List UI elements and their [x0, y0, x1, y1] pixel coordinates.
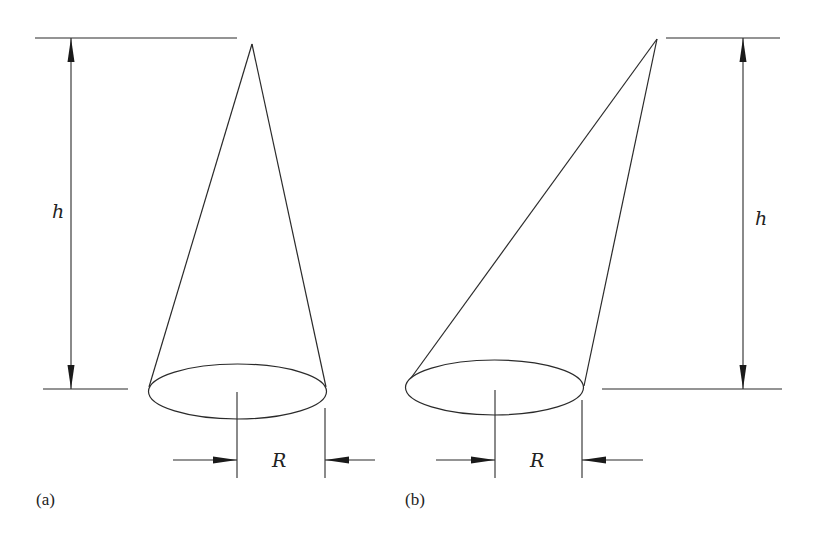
- cone-diagram: h R (a) h: [0, 0, 820, 538]
- height-label-a: h: [52, 200, 64, 222]
- panel-a: h R (a): [35, 38, 375, 509]
- panel-b: h R (b): [405, 38, 782, 509]
- height-label-b: h: [755, 207, 767, 229]
- arrow-right-icon: [213, 457, 237, 464]
- arrow-left-icon: [582, 457, 606, 464]
- panel-label-b: (b): [405, 490, 425, 509]
- arrow-up-icon: [740, 38, 747, 62]
- radius-label-b: R: [529, 449, 544, 471]
- height-dimension-a: h: [35, 38, 237, 389]
- radius-label-a: R: [271, 449, 286, 471]
- cone-b-right-edge: [584, 39, 657, 386]
- arrow-down-icon: [68, 365, 75, 389]
- radius-dimension-b: R: [436, 390, 643, 478]
- cone-a-right-edge: [252, 44, 326, 387]
- cone-a-left-edge: [149, 44, 252, 387]
- arrow-left-icon: [325, 457, 349, 464]
- radius-dimension-a: R: [173, 392, 375, 478]
- cone-b-left-edge: [411, 39, 657, 378]
- arrow-up-icon: [68, 38, 75, 62]
- panel-label-a: (a): [36, 490, 55, 509]
- arrow-down-icon: [740, 365, 747, 389]
- right-cone: [149, 44, 327, 419]
- arrow-right-icon: [471, 457, 495, 464]
- height-dimension-b: h: [602, 38, 782, 389]
- oblique-cone: [406, 39, 658, 415]
